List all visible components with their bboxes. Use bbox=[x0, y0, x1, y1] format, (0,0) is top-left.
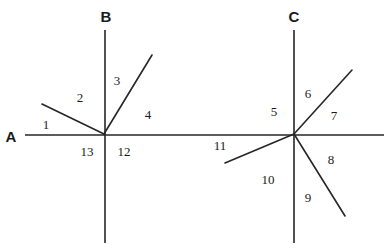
angle-label-12: 12 bbox=[118, 145, 131, 158]
angle-label-10: 10 bbox=[262, 173, 275, 186]
ray-upper-right-from-b bbox=[104, 55, 152, 134]
angle-label-9: 9 bbox=[305, 191, 312, 204]
geometry-diagram: A B C 1 2 3 4 5 6 7 8 9 10 11 12 13 bbox=[0, 0, 384, 249]
ray-lower-left-from-c bbox=[225, 134, 294, 163]
angle-label-8: 8 bbox=[328, 153, 335, 166]
angle-label-13: 13 bbox=[81, 145, 94, 158]
angle-label-7: 7 bbox=[331, 109, 338, 122]
diagram-lines bbox=[25, 30, 384, 243]
angle-label-3: 3 bbox=[114, 74, 121, 87]
angle-label-5: 5 bbox=[271, 105, 278, 118]
angle-label-6: 6 bbox=[305, 87, 312, 100]
point-label-a: A bbox=[6, 129, 17, 144]
angle-label-11: 11 bbox=[214, 139, 227, 152]
point-label-b: B bbox=[101, 9, 112, 24]
ray-upper-left-from-b bbox=[42, 104, 104, 134]
ray-lower-right-from-c bbox=[294, 134, 345, 216]
point-label-c: C bbox=[289, 9, 300, 24]
angle-label-1: 1 bbox=[43, 118, 50, 131]
angle-label-2: 2 bbox=[77, 91, 84, 104]
ray-upper-right-from-c bbox=[294, 70, 352, 134]
geometry-svg bbox=[0, 0, 384, 249]
angle-label-4: 4 bbox=[145, 108, 152, 121]
